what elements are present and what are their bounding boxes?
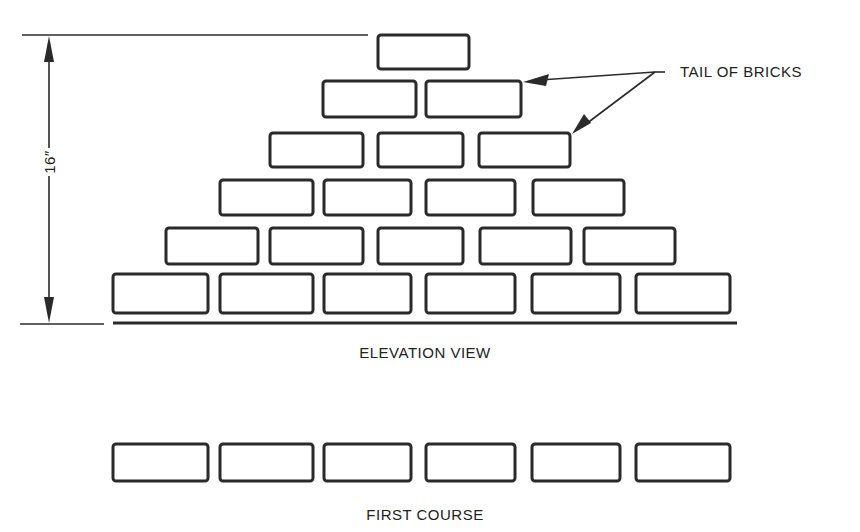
- brick: [220, 444, 313, 481]
- first-course-plan: [113, 444, 730, 481]
- brick-pyramid-diagram: 16″ TAIL OF BRICKS ELEVATION VIEW FIRST …: [0, 0, 860, 532]
- brick: [270, 228, 363, 264]
- brick: [113, 274, 208, 313]
- brick: [270, 133, 363, 167]
- brick: [378, 35, 469, 69]
- arrow-down-icon: [44, 297, 54, 323]
- brick: [378, 228, 463, 264]
- brick: [378, 133, 463, 167]
- brick: [636, 444, 730, 481]
- brick: [532, 444, 620, 481]
- elevation-view: [113, 35, 730, 313]
- brick: [166, 228, 258, 264]
- leader-line-1: [540, 72, 655, 80]
- leader-line-2: [582, 72, 655, 127]
- brick: [584, 228, 675, 264]
- brick: [533, 180, 624, 215]
- dimension-label: 16″: [41, 150, 58, 174]
- brick: [220, 274, 313, 313]
- brick: [323, 81, 416, 117]
- callout-label: TAIL OF BRICKS: [680, 63, 802, 80]
- elevation-caption: ELEVATION VIEW: [359, 344, 491, 361]
- brick: [113, 444, 208, 481]
- first-course-caption: FIRST COURSE: [366, 506, 483, 523]
- brick: [324, 444, 411, 481]
- brick: [324, 274, 411, 313]
- callout-arrow-icon: [572, 114, 591, 134]
- brick: [324, 180, 411, 215]
- brick: [532, 274, 620, 313]
- arrow-up-icon: [44, 36, 54, 62]
- brick: [479, 133, 570, 167]
- brick: [426, 444, 515, 481]
- brick: [220, 180, 313, 215]
- brick: [426, 81, 521, 117]
- callout-arrow-icon: [523, 74, 549, 86]
- brick: [636, 274, 730, 313]
- brick: [426, 180, 515, 215]
- brick: [426, 274, 515, 313]
- brick: [480, 228, 571, 264]
